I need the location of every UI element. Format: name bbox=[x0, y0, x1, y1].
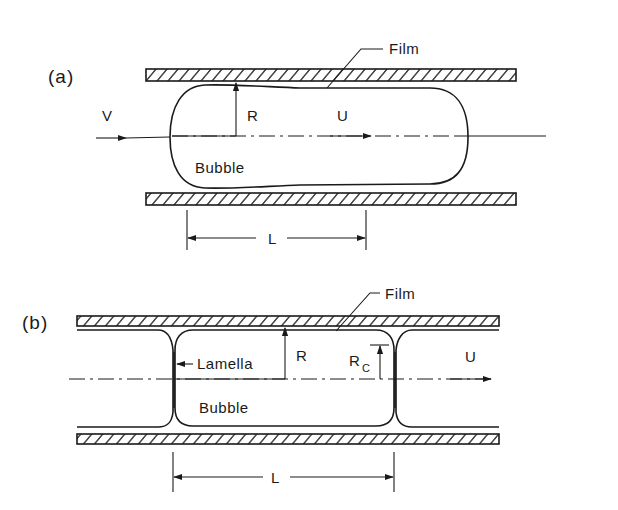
corner-radius-subscript: C bbox=[362, 362, 370, 374]
bubble-label-b: Bubble bbox=[199, 399, 249, 416]
panel-a-label: (a) bbox=[48, 66, 74, 87]
tube-wall-bottom-b bbox=[77, 434, 499, 444]
film-label-a: Film bbox=[389, 40, 419, 57]
panel-b-label: (b) bbox=[22, 312, 48, 333]
bubble-velocity-label-b: U bbox=[465, 348, 476, 365]
corner-radius-label: R bbox=[349, 352, 360, 369]
panel-a: (a) Film V R U Bubble L bbox=[48, 40, 546, 250]
bubble-flow-diagram: (a) Film V R U Bubble L (b) bbox=[0, 0, 618, 510]
radius-label-a: R bbox=[247, 107, 258, 124]
panel-b: (b) Film U Lamella R R C Bubble bbox=[22, 285, 499, 492]
tube-wall-top-a bbox=[146, 69, 516, 81]
bubble-velocity-label-a: U bbox=[337, 107, 348, 124]
bubble-label-a: Bubble bbox=[195, 159, 245, 176]
length-label-b: L bbox=[271, 469, 280, 486]
tube-wall-bottom-a bbox=[146, 193, 516, 205]
lamella-label: Lamella bbox=[197, 355, 253, 372]
length-label-a: L bbox=[268, 230, 277, 247]
tube-wall-top-b bbox=[77, 316, 499, 326]
inlet-velocity-label-a: V bbox=[102, 107, 113, 124]
radius-label-b: R bbox=[296, 347, 307, 364]
film-label-b: Film bbox=[385, 285, 415, 302]
